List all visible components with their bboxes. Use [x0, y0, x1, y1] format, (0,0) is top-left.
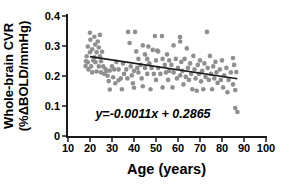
data-point	[234, 70, 239, 75]
data-point	[148, 87, 153, 92]
x-tick-label: 50	[150, 142, 162, 154]
y-tick-label: 0.1	[45, 100, 60, 112]
data-point	[188, 61, 193, 66]
data-point	[225, 90, 230, 95]
data-point	[90, 70, 95, 75]
x-tick-label: 90	[238, 142, 250, 154]
equation-annotation: y=-0.0011x + 0.2865	[94, 107, 211, 121]
data-point	[194, 88, 199, 93]
y-tick-label: 0.2	[45, 70, 60, 82]
data-point	[207, 78, 212, 83]
data-point	[233, 88, 238, 93]
scatter-chart: 10203040506070809010000.10.20.30.4y=-0.0…	[0, 0, 286, 188]
data-point	[150, 48, 155, 53]
data-point	[198, 58, 203, 63]
data-point	[141, 43, 146, 48]
y-axis-label-line1: Whole-brain CVR	[1, 22, 16, 129]
y-tick-label: 0.4	[45, 10, 61, 22]
data-point	[93, 60, 98, 65]
data-point	[136, 57, 141, 62]
data-point	[145, 57, 150, 62]
data-point	[181, 82, 186, 87]
data-point	[133, 30, 138, 35]
data-point	[219, 78, 224, 83]
data-point	[235, 110, 240, 115]
data-point	[156, 49, 161, 54]
data-point	[136, 70, 141, 75]
data-point	[86, 60, 91, 65]
data-point	[171, 43, 176, 48]
data-point	[221, 85, 226, 90]
data-point	[187, 78, 192, 83]
data-point	[128, 64, 133, 69]
y-axis-ticks: 00.10.20.30.4	[45, 10, 66, 142]
data-point	[90, 47, 95, 52]
data-point	[205, 30, 210, 35]
data-point	[213, 60, 218, 65]
data-point	[178, 39, 183, 44]
data-point	[174, 57, 179, 62]
x-tick-label: 20	[84, 142, 96, 154]
data-point	[160, 85, 165, 90]
data-point	[166, 78, 171, 83]
data-point	[178, 73, 183, 78]
data-point	[170, 85, 175, 90]
data-point	[145, 72, 150, 77]
data-point	[125, 76, 130, 81]
x-tick-label: 60	[172, 142, 184, 154]
data-point	[86, 44, 91, 49]
data-point	[160, 34, 165, 39]
data-point	[126, 30, 131, 35]
data-point	[154, 58, 159, 63]
x-tick-label: 10	[62, 142, 74, 154]
data-point	[229, 70, 234, 75]
data-point	[171, 70, 176, 75]
data-point	[116, 67, 121, 72]
data-point	[124, 67, 129, 72]
data-point	[210, 87, 215, 92]
data-point	[120, 87, 125, 92]
data-point	[143, 66, 148, 71]
data-point	[92, 34, 97, 39]
data-point	[169, 63, 174, 68]
data-point	[143, 52, 148, 57]
data-point	[112, 67, 117, 72]
data-point	[165, 52, 170, 57]
data-point	[182, 57, 187, 62]
data-point	[99, 59, 104, 64]
data-point	[199, 79, 204, 84]
data-point	[88, 37, 93, 42]
data-point	[212, 76, 217, 81]
data-point	[160, 57, 165, 62]
data-point	[190, 87, 195, 92]
data-point	[97, 64, 102, 69]
data-point	[158, 72, 163, 77]
data-point	[108, 87, 113, 92]
data-point	[167, 58, 172, 63]
data-point	[100, 49, 105, 54]
data-point	[193, 76, 198, 81]
data-point	[111, 75, 116, 80]
data-point	[208, 54, 213, 59]
data-point	[94, 69, 99, 74]
data-point	[132, 85, 137, 90]
data-point	[231, 56, 236, 61]
x-tick-label: 100	[257, 142, 275, 154]
data-point	[106, 79, 111, 84]
data-point	[95, 39, 100, 44]
data-point	[178, 35, 183, 40]
cvr-vs-age-scatter-figure: 10203040506070809010000.10.20.30.4y=-0.0…	[0, 0, 286, 188]
data-point	[231, 82, 236, 87]
data-point	[88, 31, 93, 36]
y-tick-label: 0.3	[45, 40, 60, 52]
data-point	[146, 44, 151, 49]
data-point	[141, 84, 146, 89]
data-point	[89, 64, 94, 69]
data-point	[232, 63, 237, 68]
data-point	[211, 64, 216, 69]
data-point	[220, 58, 225, 63]
data-point	[163, 63, 168, 68]
data-point	[127, 41, 132, 46]
data-point	[233, 106, 238, 111]
x-tick-label: 70	[194, 142, 206, 154]
